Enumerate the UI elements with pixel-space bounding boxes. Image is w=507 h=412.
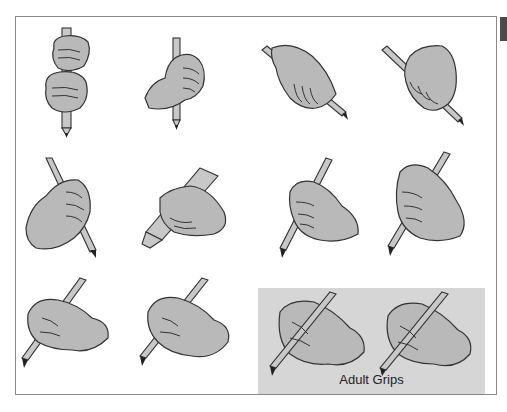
grip-illustration-7: [280, 158, 362, 258]
adult-grip-illustration-1: [270, 292, 366, 376]
hand-marker-icon: [140, 168, 232, 250]
grip-illustration-4: [382, 42, 467, 127]
adult-grips-label: Adult Grips: [258, 372, 485, 387]
grip-illustration-9: [22, 278, 112, 370]
hand-pencil-icon: [22, 278, 112, 370]
side-tab-marker: [500, 17, 507, 41]
adult-grips-panel: Adult Grips: [258, 288, 485, 394]
grip-illustration-6: [140, 168, 232, 250]
grip-illustration-2: [145, 38, 210, 130]
hand-pencil-icon: [138, 278, 234, 374]
hand-pencil-icon: [378, 292, 474, 376]
hand-pencil-icon: [388, 152, 470, 258]
hand-pencil-icon: [145, 38, 210, 130]
grip-illustration-5: [26, 158, 98, 258]
hand-pencil-icon: [26, 158, 98, 258]
grip-illustration-3: [262, 42, 350, 120]
grip-illustration-1: [40, 28, 95, 140]
hand-pencil-icon: [280, 158, 362, 258]
hand-pencil-icon: [40, 28, 95, 140]
adult-grip-illustration-2: [378, 292, 474, 376]
hand-pencil-icon: [382, 42, 467, 127]
hand-pencil-icon: [262, 42, 350, 120]
grip-illustration-10: [138, 278, 234, 374]
hand-pencil-icon: [270, 292, 366, 376]
grip-illustration-8: [388, 152, 470, 258]
